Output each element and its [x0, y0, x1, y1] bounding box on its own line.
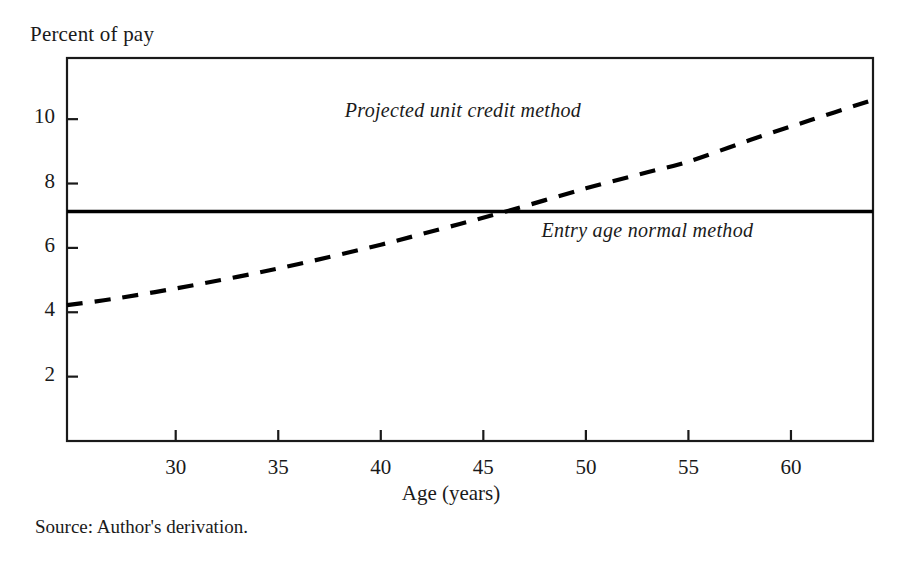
- x-axis-title: Age (years): [0, 481, 902, 506]
- series-annotation-label: Entry age normal method: [541, 219, 753, 242]
- y-tick-marks: [67, 119, 78, 376]
- x-tick-label: 30: [146, 455, 206, 480]
- x-tick-label: 55: [658, 455, 718, 480]
- x-tick-marks: [176, 430, 791, 441]
- x-tick-label: 45: [453, 455, 513, 480]
- x-tick-label: 35: [248, 455, 308, 480]
- y-tick-label: 10: [9, 104, 55, 129]
- x-tick-label: 50: [556, 455, 616, 480]
- x-tick-label: 40: [351, 455, 411, 480]
- y-tick-label: 2: [9, 362, 55, 387]
- y-tick-label: 4: [9, 297, 55, 322]
- source-note: Source: Author's derivation.: [35, 516, 248, 538]
- y-tick-label: 6: [9, 233, 55, 258]
- series-annotation-label: Projected unit credit method: [345, 99, 581, 122]
- series-line-projected-unit-credit: [67, 100, 873, 305]
- y-tick-label: 8: [9, 169, 55, 194]
- x-tick-label: 60: [761, 455, 821, 480]
- chart-figure: Percent of pay 246810 30354045505560 Pro…: [0, 0, 902, 562]
